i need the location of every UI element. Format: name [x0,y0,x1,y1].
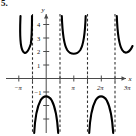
curve-upper-branch-center [62,16,86,54]
y-axis [43,14,49,133]
y-tick-label-2: 2 [37,48,40,55]
x-tick-label-2pi: 2π [97,84,104,91]
y-tick-label-1: 1 [37,62,40,69]
curve-lower-branch-right [89,96,113,133]
x-axis [6,76,126,82]
x-axis-arrow [122,76,127,80]
y-axis-arrow [44,14,48,19]
asymptote-group [33,14,116,133]
graph-svg: y x −π π 2π 3π 4 3 2 1 −1 [0,0,136,136]
x-axis-label: x [128,75,133,83]
y-axis-label: y [41,6,46,14]
curve-upper-branch-left [20,16,32,53]
y-tick-label-neg-1: −1 [35,89,42,96]
figure-page: 5. [0,0,136,136]
curve-upper-branch-right [117,16,133,53]
y-tick-label-4: 4 [37,21,41,28]
graph-figure: y x −π π 2π 3π 4 3 2 1 −1 [0,0,136,136]
x-tick-label-neg-pi: −π [14,84,22,91]
x-tick-label-pi: π [72,84,76,91]
x-tick-label-3pi: 3π [123,84,131,91]
y-tick-label-3: 3 [37,35,40,42]
